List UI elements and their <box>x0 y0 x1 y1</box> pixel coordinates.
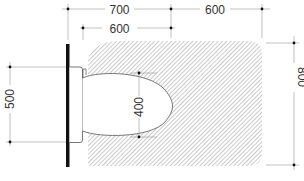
dim-label-400: 400 <box>132 97 146 117</box>
wc-plan-drawing: 700 600 600 800 500 400 <box>0 0 304 181</box>
dim-label-800: 800 <box>295 67 304 87</box>
wall <box>66 44 70 167</box>
dim-label-600-top: 600 <box>205 3 225 17</box>
dim-label-600-inner: 600 <box>109 22 129 36</box>
dim-label-700: 700 <box>109 3 129 17</box>
toilet-cistern <box>70 67 83 143</box>
dim-label-500: 500 <box>3 89 17 109</box>
